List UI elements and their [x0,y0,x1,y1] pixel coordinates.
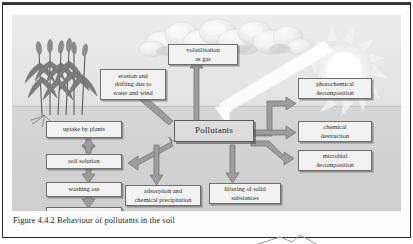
figure-artwork: Pollutants volatilisation as gas erosion… [12,15,401,211]
node-groundwater[interactable]: groundwater [46,207,122,211]
node-volatilisation[interactable]: volatilisation as gas [168,44,238,65]
node-adsorption[interactable]: adsorption and chemical precipitation [125,185,201,206]
figure-caption: Figure 4.4.2 Behaviour of pollutants in … [13,216,393,225]
node-washing-out[interactable]: washing out [46,182,122,197]
node-chemical-destruction[interactable]: chemical destruction [298,121,372,142]
node-filtering[interactable]: filtering of solid substances [209,183,281,204]
page: Pollutants volatilisation as gas erosion… [0,0,413,244]
mountain-outline-icon [0,234,413,244]
node-erosion[interactable]: erosion and drifting due to water and wi… [100,69,166,100]
node-microbial-decomposition[interactable]: microbial decomposition [298,150,372,171]
node-uptake-by-plants[interactable]: uptake by plants [46,121,122,138]
node-pollutants[interactable]: Pollutants [174,120,254,142]
node-soil-solution[interactable]: soil solution [46,154,122,169]
horizon-line [12,106,401,107]
node-photochemical-decomposition[interactable]: photochemical decomposition [298,78,372,99]
next-figure-fragment [0,232,413,244]
